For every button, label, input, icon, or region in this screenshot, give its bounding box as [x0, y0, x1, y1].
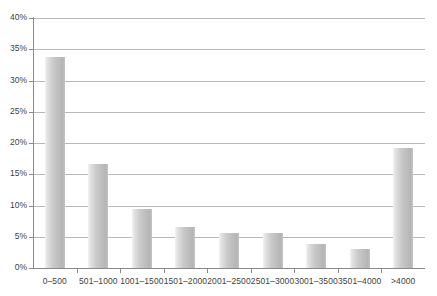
x-axis-tick: [338, 269, 339, 273]
x-axis-tick: [294, 269, 295, 273]
x-axis-tick: [251, 269, 252, 273]
bar: [88, 164, 108, 268]
x-axis-tick: [207, 269, 208, 273]
x-axis-tick-label: 501–1000: [77, 276, 121, 286]
y-axis-tick-label: 35%: [0, 43, 27, 53]
bar-chart: 0%5%10%15%20%25%30%35%40% 0–500501–10001…: [0, 0, 437, 296]
y-axis-tick-label: 0%: [0, 262, 27, 272]
y-axis-tick-label: 20%: [0, 137, 27, 147]
bar: [350, 249, 370, 268]
x-axis-tick-label: 2001–2500: [207, 276, 251, 286]
x-axis-tick-label: 1501–2000: [164, 276, 208, 286]
x-axis-tick-label: 3501–4000: [338, 276, 382, 286]
x-axis-tick-label: 2501–3000: [251, 276, 295, 286]
y-axis-tick-label: 15%: [0, 168, 27, 178]
x-axis-line: [33, 268, 425, 269]
y-axis-tick: [29, 268, 33, 269]
x-axis-tick: [120, 269, 121, 273]
bar: [45, 57, 65, 268]
x-axis-tick: [77, 269, 78, 273]
y-axis-tick-label: 30%: [0, 75, 27, 85]
bar: [306, 244, 326, 268]
x-axis-tick-label: >4000: [381, 276, 425, 286]
bar: [175, 227, 195, 268]
x-axis-tick-label: 3001–3500: [294, 276, 338, 286]
bar: [219, 233, 239, 268]
bar: [393, 148, 413, 268]
y-axis-tick-label: 10%: [0, 200, 27, 210]
y-axis-tick-label: 25%: [0, 106, 27, 116]
bar: [132, 209, 152, 268]
x-axis-tick-label: 0–500: [33, 276, 77, 286]
bar: [263, 233, 283, 268]
bars-layer: [33, 18, 425, 268]
y-axis-tick-label: 40%: [0, 12, 27, 22]
x-axis-tick-label: 1001–1500: [120, 276, 164, 286]
y-axis-tick-label: 5%: [0, 231, 27, 241]
x-axis-tick: [164, 269, 165, 273]
x-axis-tick: [381, 269, 382, 273]
